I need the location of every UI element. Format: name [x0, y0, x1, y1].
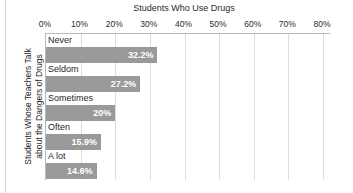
bar[interactable]: 32.2% — [46, 47, 157, 63]
bar[interactable]: 20% — [46, 105, 115, 121]
bar[interactable]: 14.6% — [46, 163, 97, 179]
bar-row: Often15.9% — [46, 121, 330, 150]
x-tick-label: 60% — [244, 19, 261, 29]
bar-value-label: 14.6% — [67, 163, 93, 179]
bar[interactable]: 27.2% — [46, 76, 140, 92]
bar-value-label: 27.2% — [111, 76, 137, 92]
bar-value-label: 32.2% — [128, 47, 154, 63]
bar-rows: Never32.2%Seldom27.2%Sometimes20%Often15… — [46, 34, 330, 180]
x-tick-label: 70% — [279, 19, 296, 29]
x-tick-label: 10% — [71, 19, 88, 29]
bar-row: Never32.2% — [46, 34, 330, 63]
left-frame-line — [5, 0, 6, 193]
y-axis-title-line-1: Students Whose Teachers Talk — [23, 48, 34, 164]
category-label: Seldom — [48, 63, 81, 76]
bar-row: Sometimes20% — [46, 92, 330, 121]
plot-area: Never32.2%Seldom27.2%Sometimes20%Often15… — [45, 33, 330, 180]
bar-value-label: 15.9% — [72, 134, 98, 150]
category-label: A lot — [48, 150, 68, 163]
x-tick-label: 0% — [39, 19, 51, 29]
x-tick-label: 40% — [175, 19, 192, 29]
bar-chart: Students Who Use Drugs 0%10%20%30%40%50%… — [0, 0, 353, 193]
x-tick-label: 30% — [140, 19, 157, 29]
chart-title: Students Who Use Drugs — [45, 3, 323, 13]
category-label: Never — [48, 34, 74, 47]
category-label: Often — [48, 121, 72, 134]
x-tick-label: 80% — [313, 19, 330, 29]
bar-row: A lot14.6% — [46, 150, 330, 179]
y-axis-title-line-2: about the Dangers of Drugs — [34, 54, 45, 158]
bar-value-label: 20% — [93, 105, 111, 121]
bar-row: Seldom27.2% — [46, 63, 330, 92]
x-tick-label: 20% — [106, 19, 123, 29]
x-axis-tick-labels: 0%10%20%30%40%50%60%70%80% — [45, 19, 323, 31]
x-tick-label: 50% — [210, 19, 227, 29]
category-label: Sometimes — [48, 92, 95, 105]
bar[interactable]: 15.9% — [46, 134, 101, 150]
